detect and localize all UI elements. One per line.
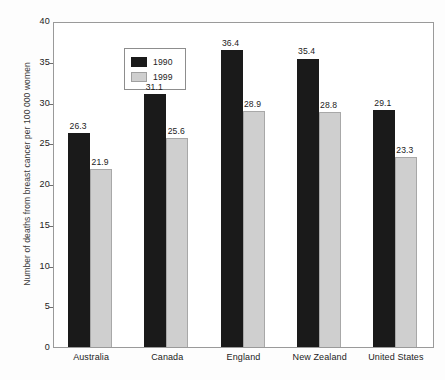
legend-label-1990: 1990 (153, 57, 173, 67)
y-axis-title: Number of deaths from breast cancer per … (18, 0, 36, 348)
bar-value-label: 28.9 (233, 99, 273, 109)
bar-value-label: 23.3 (385, 145, 425, 155)
dark-swatch-icon (131, 57, 147, 67)
light-swatch-icon (131, 72, 147, 82)
plot-area: 1990 1999 (53, 22, 434, 348)
bar-value-label: 26.3 (58, 121, 98, 131)
bar-value-label: 25.6 (156, 126, 196, 136)
bar-united-states-1999 (395, 157, 417, 347)
bar-value-label: 21.9 (80, 157, 120, 167)
bar-england-1999 (243, 111, 265, 347)
bar-england-1990 (221, 50, 243, 347)
y-tick-label: 30 (20, 98, 50, 110)
y-tick-label: 40 (20, 16, 50, 28)
y-tick-label: 10 (20, 261, 50, 273)
x-label-united-states: United States (358, 352, 434, 362)
bar-value-label: 35.4 (287, 46, 327, 56)
x-label-australia: Australia (53, 352, 129, 362)
bar-value-label: 31.1 (134, 82, 174, 92)
legend-label-1999: 1999 (153, 72, 173, 82)
x-label-canada: Canada (129, 352, 205, 362)
legend-entry-1990: 1990 (131, 54, 185, 69)
y-tick-label: 5 (20, 301, 50, 313)
y-tick-label: 35 (20, 57, 50, 69)
bar-new-zealand-1999 (319, 112, 341, 347)
bar-canada-1999 (166, 138, 188, 347)
y-tick-label: 25 (20, 138, 50, 150)
bar-value-label: 36.4 (211, 38, 251, 48)
bar-chart-figure: Number of deaths from breast cancer per … (0, 0, 445, 380)
x-label-england: England (205, 352, 281, 362)
y-tick-label: 0 (20, 342, 50, 354)
y-tick-label: 15 (20, 220, 50, 232)
bar-value-label: 29.1 (363, 98, 403, 108)
x-label-new-zealand: New Zealand (282, 352, 358, 362)
bar-australia-1999 (90, 169, 112, 347)
bar-value-label: 28.8 (309, 100, 349, 110)
y-tick-label: 20 (20, 179, 50, 191)
